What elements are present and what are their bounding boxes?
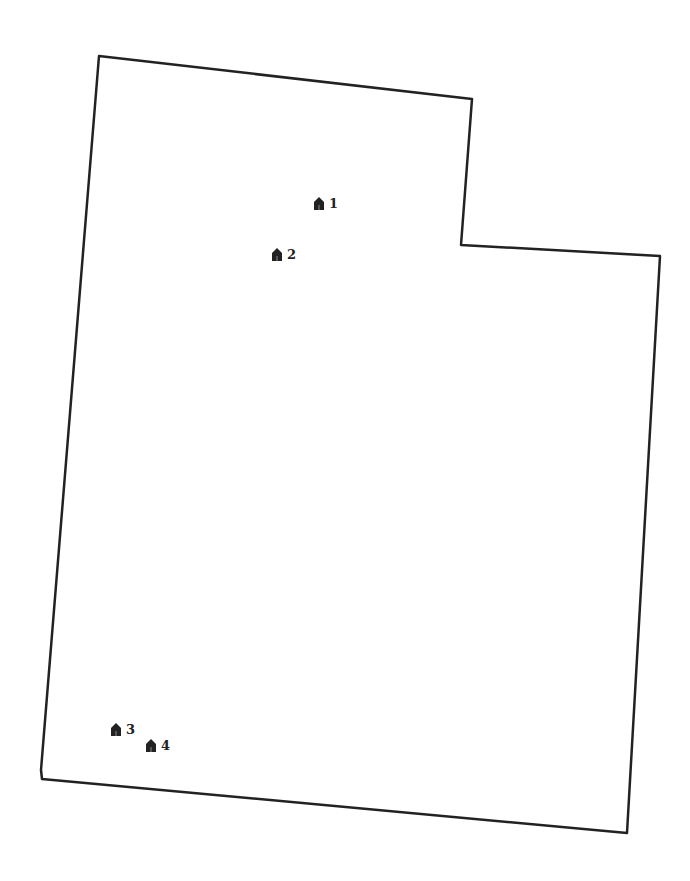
marker-label: 4 — [161, 739, 170, 752]
map-marker-2[interactable]: 2 — [271, 247, 296, 261]
house-icon — [313, 196, 325, 210]
marker-label: 3 — [126, 723, 135, 736]
state-boundary — [41, 56, 660, 833]
map-marker-1[interactable]: 1 — [313, 196, 338, 210]
house-icon — [110, 722, 122, 736]
marker-label: 1 — [329, 197, 338, 210]
map-marker-4[interactable]: 4 — [145, 738, 170, 752]
state-outline-map — [0, 0, 690, 881]
house-icon — [145, 738, 157, 752]
marker-label: 2 — [287, 248, 296, 261]
house-icon — [271, 247, 283, 261]
map-marker-3[interactable]: 3 — [110, 722, 135, 736]
